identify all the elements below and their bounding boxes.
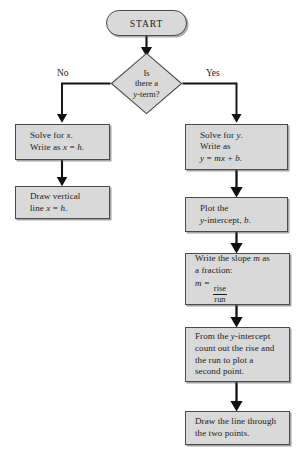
count-line-4: second point. [195,366,285,378]
count-line-2: count out the rise and [195,343,285,355]
period-2: . [65,203,67,213]
plot-line-1: Plot the [200,203,283,215]
solve-for-y-text-a: Solve for [200,130,236,140]
fraction-numerator: rise [213,284,227,295]
decision-text: Is there a y-term? [110,52,183,115]
node-write-slope-fraction[interactable]: Write the slope m as a fraction: m=riser… [185,253,290,305]
decision-line-3-rest: -term? [137,89,159,99]
flowchart-canvas: START Is there a y-term? No Yes Solve fo… [0,0,296,449]
solve-for-x-text-b: . [70,130,72,140]
solve-for-x-line-1: Solve for x. [30,130,105,142]
from-the-text: From the [195,331,231,341]
slope-text-a: Write the slope [195,253,253,263]
node-solve-for-y[interactable]: Solve for y. Write as y=mx+b. [185,124,288,170]
term-mx: mx [214,153,225,163]
decision-line-2: there a [135,78,158,88]
fraction-rise-over-run: riserun [213,284,227,305]
equals-sign-4: = [202,278,212,288]
solve-for-y-line-1: Solve for y. [200,130,283,142]
branch-label-no: No [57,68,68,78]
plot-line-2: y-intercept, b. [200,215,283,227]
intercept-text: -intercept, [204,215,244,225]
period-4: . [249,215,251,225]
edge-decision-yes [183,84,237,120]
count-line-3: the run to plot a [195,355,285,367]
node-decision[interactable]: Is there a y-term? [110,52,183,115]
var-m-2: m [195,278,202,288]
draw-line-1: Draw the line through [195,416,285,428]
solve-for-x-text-a: Solve for [30,130,66,140]
decision-line-3: y-term? [133,89,159,99]
equals-sign-2: = [50,203,60,213]
slope-line-2: a fraction: [195,265,285,277]
equals-sign-3: = [204,153,214,163]
node-count-rise-run[interactable]: From the y-intercept count out the rise … [185,327,290,382]
solve-for-y-line-3: y=mx+b. [200,153,283,165]
slope-line-1: Write the slope m as [195,253,285,265]
write-as-text: Write as [30,142,63,152]
edge-decision-no [62,84,111,120]
intercept-text-2: -intercept [235,331,270,341]
draw-vertical-line-2: line x=h. [30,203,105,215]
count-line-1: From the y-intercept [195,331,285,343]
slope-text-b: as [260,253,270,263]
solve-for-y-text-b: . [240,130,242,140]
var-m: m [253,253,260,263]
draw-vertical-line-1: Draw vertical [30,191,105,203]
period: . [82,142,84,152]
decision-line-1: Is [143,68,149,78]
equals-sign: = [67,142,77,152]
period-3: . [240,153,242,163]
plus-sign: + [225,153,235,163]
solve-for-x-line-2: Write as x=h. [30,142,105,154]
branch-label-yes: Yes [206,68,220,78]
node-start[interactable]: START [106,10,187,36]
node-draw-line-through-points[interactable]: Draw the line through the two points. [185,411,290,445]
solve-for-y-line-2: Write as [200,141,283,153]
node-solve-for-x[interactable]: Solve for x. Write as x=h. [15,124,110,160]
line-text: line [30,203,46,213]
slope-line-3: m=riserun [195,278,285,305]
node-draw-vertical-line[interactable]: Draw vertical line x=h. [15,186,110,219]
node-plot-y-intercept[interactable]: Plot the y-intercept, b. [185,197,288,232]
start-label: START [130,18,164,29]
draw-line-2: the two points. [195,428,285,440]
fraction-denominator: run [213,295,226,305]
